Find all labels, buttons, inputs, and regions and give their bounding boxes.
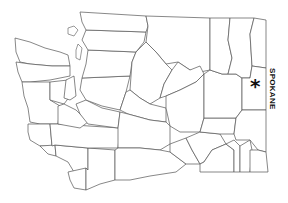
- washington-county-map: [0, 0, 288, 203]
- spokane-label: SPOKANE: [268, 68, 277, 110]
- county-stevens: [228, 18, 254, 78]
- county-cowlitz: [55, 145, 88, 172]
- county-clallam: [15, 38, 70, 66]
- county-lincoln: [204, 70, 242, 118]
- county-island: [76, 44, 82, 60]
- county-kitsap: [64, 76, 76, 100]
- county-ferry: [210, 18, 232, 74]
- county-clark: [68, 168, 86, 190]
- county-whatcom: [80, 12, 148, 32]
- county-skamania: [86, 148, 115, 190]
- county-asotin: [250, 150, 268, 172]
- county-wahkiakum: [40, 145, 56, 156]
- county-pacific: [28, 124, 52, 146]
- county-adams: [200, 118, 236, 134]
- county-san-juan: [68, 26, 78, 36]
- spokane-marker-icon: *: [250, 76, 260, 96]
- county-skagit: [82, 30, 146, 52]
- county-pend-oreille: [250, 18, 266, 68]
- county-lewis: [50, 124, 120, 148]
- county-snohomish: [82, 50, 136, 78]
